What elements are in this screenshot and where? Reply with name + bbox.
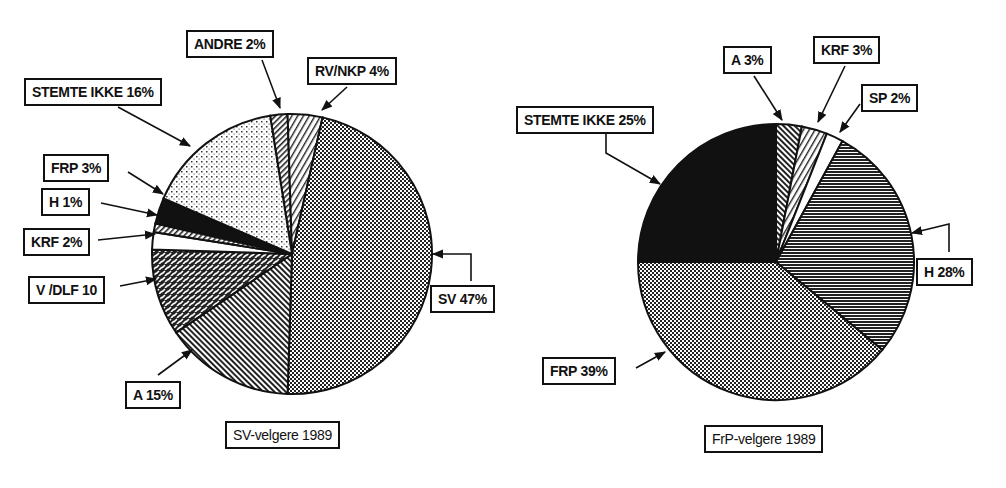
- label-a-right: A 3%: [723, 46, 772, 74]
- label-h-right: H 28%: [916, 258, 973, 286]
- right-pie-chart: [638, 124, 914, 400]
- label-h-left: H 1%: [41, 188, 90, 216]
- label-v-dlf: V /DLF 10: [28, 276, 105, 304]
- label-sv: SV 47%: [430, 285, 495, 313]
- caption-sv-velgere: SV-velgere 1989: [225, 421, 340, 449]
- label-frp-right: FRP 39%: [542, 357, 616, 385]
- label-andre: ANDRE 2%: [186, 30, 274, 58]
- label-a-left: A 15%: [125, 381, 181, 409]
- label-krf-right: KRF 3%: [813, 36, 880, 64]
- label-krf-left: KRF 2%: [23, 228, 90, 256]
- left-pie-chart: [152, 114, 432, 394]
- caption-frp-velgere: FrP-velgere 1989: [704, 425, 823, 453]
- label-frp-left: FRP 3%: [43, 154, 109, 182]
- label-stemte-ikke-left: STEMTE IKKE 16%: [24, 78, 162, 106]
- charts-canvas: [0, 0, 1006, 488]
- label-stemte-ikke-right: STEMTE IKKE 25%: [516, 106, 654, 134]
- label-sp: SP 2%: [861, 84, 918, 112]
- pie-slice-stemte-ikke: [638, 124, 776, 262]
- label-rv-nkp: RV/NKP 4%: [307, 57, 397, 85]
